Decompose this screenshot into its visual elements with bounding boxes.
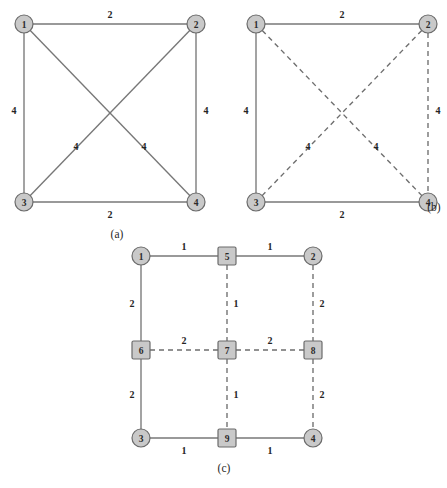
node-label-3: 3 — [254, 198, 259, 208]
figure-root: 1234244244(a)1234242444(b)12345678911221… — [0, 0, 447, 488]
node-label-2: 2 — [426, 20, 431, 30]
panel-b-edges — [256, 24, 428, 202]
edge-weight-3-9: 1 — [182, 445, 187, 456]
node-label-9: 9 — [225, 434, 230, 444]
node-label-1: 1 — [22, 20, 27, 30]
panel-c: 123456789112211122212(c) — [130, 241, 325, 476]
panel-b-weights: 242444 — [244, 9, 441, 220]
edge-weight-3-4: 2 — [340, 209, 345, 220]
edge-weight-1-3: 4 — [12, 105, 17, 116]
edge-weight-6-3: 2 — [130, 389, 135, 400]
node-label-2: 2 — [311, 252, 316, 262]
node-label-3: 3 — [22, 198, 27, 208]
edge-weight-1-3: 4 — [244, 105, 249, 116]
edge-weight-1-2: 2 — [108, 9, 113, 20]
panel-c-caption: (c) — [218, 462, 231, 475]
panel-a-edges — [24, 24, 196, 202]
edge-weight-1-6: 2 — [130, 298, 135, 309]
edge-weight-7-9: 1 — [234, 389, 239, 400]
panel-b-caption: (b) — [427, 201, 441, 214]
node-label-5: 5 — [225, 252, 230, 262]
panel-a-weights: 244244 — [12, 9, 209, 220]
edge-weight-1-4: 4 — [374, 141, 379, 152]
graph-figure-canvas: 1234244244(a)1234242444(b)12345678911221… — [0, 0, 447, 488]
node-label-4: 4 — [311, 434, 316, 444]
panel-a: 1234244244(a) — [12, 9, 209, 242]
edge-weight-2-8: 2 — [320, 298, 325, 309]
edge-weight-1-4: 4 — [142, 141, 147, 152]
node-label-4: 4 — [194, 198, 199, 208]
edge-weight-6-7: 2 — [182, 335, 187, 346]
edge-weight-1-5: 1 — [182, 241, 187, 252]
edge-weight-5-2: 1 — [268, 241, 273, 252]
edge-weight-2-4: 4 — [436, 105, 441, 116]
panel-b: 1234242444(b) — [244, 9, 441, 220]
edge-weight-2-3: 4 — [74, 141, 79, 152]
edge-weight-9-4: 1 — [268, 445, 273, 456]
node-label-6: 6 — [139, 346, 144, 356]
edge-weight-7-8: 2 — [268, 335, 273, 346]
node-label-8: 8 — [311, 346, 316, 356]
edge-weight-1-2: 2 — [340, 9, 345, 20]
panel-a-caption: (a) — [111, 228, 124, 241]
node-label-2: 2 — [194, 20, 199, 30]
edge-weight-2-3: 4 — [306, 141, 311, 152]
node-label-7: 7 — [225, 346, 230, 356]
edge-weight-5-7: 1 — [234, 298, 239, 309]
node-label-3: 3 — [139, 434, 144, 444]
edge-weight-8-4: 2 — [320, 389, 325, 400]
edge-weight-3-4: 2 — [108, 209, 113, 220]
node-label-1: 1 — [254, 20, 259, 30]
node-label-1: 1 — [139, 252, 144, 262]
edge-weight-2-4: 4 — [204, 105, 209, 116]
